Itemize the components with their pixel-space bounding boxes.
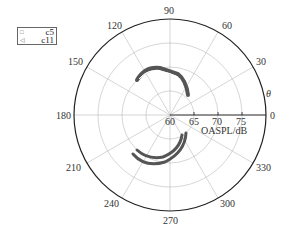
angle-label-180: 180 <box>56 110 71 121</box>
angle-label-270: 270 <box>163 215 178 226</box>
angle-label-300: 300 <box>220 198 235 209</box>
radial-tick-60: 60 <box>165 116 175 127</box>
angle-label-240: 240 <box>104 198 119 209</box>
theta-label: θ <box>266 88 271 99</box>
square-marker-icon: □ <box>20 28 24 36</box>
angle-label-330: 330 <box>256 162 271 173</box>
angle-label-90: 90 <box>164 5 174 16</box>
angle-label-210: 210 <box>66 162 81 173</box>
angle-label-150: 150 <box>68 56 83 67</box>
legend-item-c11: ◁c11 <box>18 36 56 44</box>
angle-label-60: 60 <box>222 20 232 31</box>
triangle-marker-icon: ◁ <box>20 36 25 44</box>
radial-axis-label: OASPL/dB <box>201 125 247 136</box>
angle-label-0: 0 <box>270 110 275 121</box>
radial-tick-65: 65 <box>189 116 199 127</box>
angle-label-30: 30 <box>256 56 266 67</box>
legend-label: c11 <box>41 36 54 44</box>
legend: □c5 ◁c11 <box>17 27 57 45</box>
angle-label-120: 120 <box>107 20 122 31</box>
